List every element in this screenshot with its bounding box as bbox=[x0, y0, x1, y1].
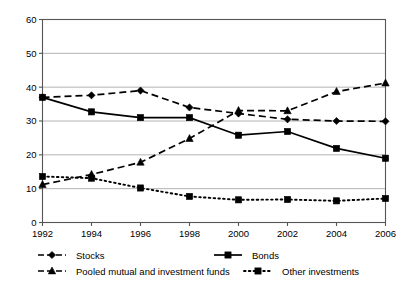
chart-axes bbox=[39, 20, 386, 227]
data-point bbox=[333, 88, 340, 95]
data-point bbox=[333, 198, 339, 204]
data-point bbox=[382, 155, 388, 161]
y-axis-tick-label: 50 bbox=[26, 48, 37, 59]
legend-marker bbox=[48, 251, 55, 258]
data-point bbox=[186, 115, 192, 121]
series-line bbox=[43, 83, 386, 185]
data-point bbox=[235, 132, 241, 138]
data-point bbox=[137, 115, 143, 121]
x-axis-tick-label: 2004 bbox=[326, 228, 347, 239]
data-series bbox=[39, 79, 389, 204]
data-point bbox=[333, 145, 339, 151]
legend-label: Bonds bbox=[252, 250, 279, 261]
legend-item-other-investments[interactable]: Other investments bbox=[244, 266, 359, 277]
data-point bbox=[137, 87, 144, 94]
data-point bbox=[88, 175, 94, 181]
x-axis-tick-label: 1994 bbox=[81, 228, 102, 239]
data-point bbox=[382, 195, 388, 201]
y-axis-tick-label: 60 bbox=[26, 14, 37, 25]
y-axis-tick-label: 10 bbox=[26, 183, 37, 194]
chart-canvas: 0102030405060 19921994199619982000200220… bbox=[0, 0, 415, 286]
data-point bbox=[39, 94, 45, 100]
y-axis-tick-label: 20 bbox=[26, 149, 37, 160]
chart-legend: StocksBondsPooled mutual and investment … bbox=[38, 250, 359, 277]
x-axis-tick-label: 1996 bbox=[130, 228, 151, 239]
legend-marker bbox=[255, 268, 261, 274]
x-axis-tick-label: 2006 bbox=[375, 228, 396, 239]
gridlines bbox=[43, 20, 386, 189]
data-point bbox=[88, 109, 94, 115]
x-axis-tick-label: 1998 bbox=[179, 228, 200, 239]
line-chart: 0102030405060 19921994199619982000200220… bbox=[0, 0, 415, 286]
data-point bbox=[186, 104, 193, 111]
x-axis-tick-labels: 19921994199619982000200220042006 bbox=[32, 228, 396, 239]
legend-item-bonds[interactable]: Bonds bbox=[214, 250, 279, 261]
y-axis-tick-label: 40 bbox=[26, 82, 37, 93]
y-axis-tick-labels: 0102030405060 bbox=[26, 14, 37, 228]
data-point bbox=[137, 185, 143, 191]
y-axis-tick-label: 0 bbox=[31, 217, 36, 228]
data-point bbox=[284, 116, 291, 123]
data-point bbox=[235, 197, 241, 203]
data-point bbox=[382, 118, 389, 125]
data-point bbox=[186, 193, 192, 199]
data-point bbox=[333, 117, 340, 124]
legend-label: Other investments bbox=[282, 266, 359, 277]
x-axis-tick-label: 2000 bbox=[228, 228, 249, 239]
data-point bbox=[39, 173, 45, 179]
series-bonds bbox=[39, 94, 388, 161]
x-axis-tick-label: 2002 bbox=[277, 228, 298, 239]
x-axis-tick-label: 1992 bbox=[32, 228, 53, 239]
legend-item-pooled-mutual-and-investment-funds[interactable]: Pooled mutual and investment funds bbox=[38, 266, 230, 277]
data-point bbox=[284, 196, 290, 202]
y-axis-tick-label: 30 bbox=[26, 115, 37, 126]
legend-label: Stocks bbox=[76, 250, 105, 261]
data-point bbox=[284, 128, 290, 134]
data-point bbox=[382, 79, 389, 86]
data-point bbox=[88, 92, 95, 99]
legend-item-stocks[interactable]: Stocks bbox=[38, 250, 105, 261]
legend-label: Pooled mutual and investment funds bbox=[76, 266, 230, 277]
legend-marker bbox=[225, 252, 231, 258]
